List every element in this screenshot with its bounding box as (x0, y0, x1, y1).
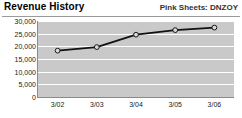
x-axis-tick-label: 3/03 (90, 101, 104, 108)
x-axis-tick-label: 3/02 (51, 101, 65, 108)
data-point-marker (212, 25, 217, 30)
revenue-history-chart-card: Revenue History Pink Sheets: DNZOY 05,00… (0, 0, 242, 118)
series-layer (0, 0, 242, 118)
x-axis-tick-label: 3/06 (208, 101, 222, 108)
data-point-marker (173, 28, 178, 33)
data-point-marker (94, 45, 99, 50)
data-point-marker (134, 32, 139, 37)
x-axis-tick-label: 3/04 (129, 101, 143, 108)
x-axis-tick-label: 3/05 (168, 101, 182, 108)
series-line-revenue (58, 28, 215, 51)
data-point-marker (55, 48, 60, 53)
